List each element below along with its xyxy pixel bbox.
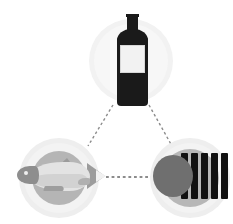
fish-pectoral-fin <box>78 178 90 185</box>
bottle-shoulder <box>127 23 138 36</box>
chocolate-bar-5 <box>221 153 228 199</box>
fish-eye <box>24 171 28 175</box>
fish-tail-notch <box>96 170 106 182</box>
fish-icon <box>16 158 116 198</box>
diagram-canvas <box>0 0 233 224</box>
fish-ventral-fin <box>43 186 65 191</box>
wine-bottle-icon <box>116 14 149 106</box>
node-wine[interactable] <box>86 14 178 110</box>
chocolate-bar-3 <box>201 153 208 199</box>
node-chocolate[interactable] <box>146 136 233 220</box>
chocolate-bar-icon <box>150 153 233 201</box>
fish-head <box>17 166 39 184</box>
chocolate-bar-4 <box>211 153 218 199</box>
chocolate-round-piece <box>153 155 193 197</box>
bottle-label <box>120 45 145 73</box>
node-fish[interactable] <box>14 136 120 220</box>
